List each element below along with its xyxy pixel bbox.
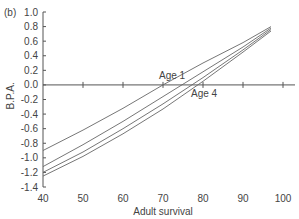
- series-age-2: [43, 28, 271, 167]
- series-age-4: [43, 31, 271, 176]
- y-tick-label: -1.2: [21, 167, 39, 178]
- y-tick-label: -0.6: [21, 123, 39, 134]
- x-tick-label: 80: [197, 193, 209, 204]
- y-axis-title: B.P.A.: [5, 82, 16, 109]
- x-tick-label: 40: [37, 193, 49, 204]
- y-tick-label: 0.4: [24, 50, 38, 61]
- y-tick-label: 1.0: [24, 7, 38, 18]
- panel-label: (b): [4, 7, 16, 18]
- x-tick-label: 50: [77, 193, 89, 204]
- x-tick-label: 60: [117, 193, 129, 204]
- y-tick-label: -1.4: [21, 182, 39, 193]
- y-tick-label: -0.2: [21, 94, 39, 105]
- y-tick-label: 0.0: [24, 79, 38, 90]
- line-chart: (b)1.00.80.60.40.20.0-0.2-0.4-0.6-0.8-1.…: [0, 0, 299, 219]
- x-tick-label: 70: [157, 193, 169, 204]
- y-tick-label: 0.2: [24, 65, 38, 76]
- x-tick-label: 90: [237, 193, 249, 204]
- x-axis-title: Adult survival: [133, 206, 192, 217]
- y-tick-label: -0.8: [21, 138, 39, 149]
- y-tick-label: 0.6: [24, 36, 38, 47]
- annotation-age-4: Age 4: [191, 88, 218, 99]
- y-tick-label: -1.0: [21, 152, 39, 163]
- y-tick-label: -0.4: [21, 109, 39, 120]
- x-tick-label: 100: [275, 193, 292, 204]
- series-age-1: [43, 27, 271, 151]
- y-tick-label: 0.8: [24, 21, 38, 32]
- annotation-age-1: Age 1: [159, 70, 186, 81]
